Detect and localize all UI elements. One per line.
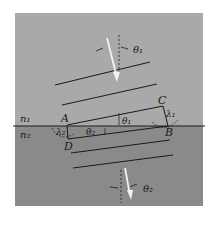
point-D-label: D [63, 140, 73, 153]
theta2-bottom-label: θ₂ [143, 183, 153, 194]
point-B-label: B [164, 126, 173, 139]
lambda1-label: λ₁ [165, 109, 175, 119]
medium-2-region [15, 126, 203, 206]
point-A-label: A [60, 112, 69, 125]
theta1-interface-label: θ₁ [122, 116, 131, 126]
lambda2-label: λ₂ [55, 127, 66, 137]
refraction-diagram: θ₁ θ₂ n₁ n₂ A B C D θ₁ θ₂ λ₁ λ₂ [0, 0, 216, 234]
point-C-label: C [158, 94, 167, 107]
theta1-top-label: θ₁ [133, 44, 143, 55]
n2-label: n₂ [20, 129, 30, 140]
n1-label: n₁ [20, 113, 30, 124]
theta2-interface-label: θ₂ [86, 127, 95, 137]
